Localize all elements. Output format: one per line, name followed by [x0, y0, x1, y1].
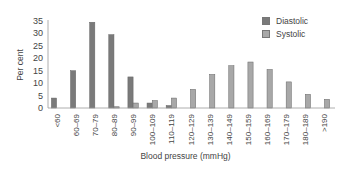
- bar-systolic: [152, 101, 157, 108]
- bar-systolic: [210, 74, 215, 108]
- x-tick-label: 120–129: [187, 113, 196, 145]
- x-tick-label: 80–89: [110, 113, 119, 136]
- bar-diastolic: [147, 103, 152, 108]
- bar-systolic: [267, 69, 272, 108]
- x-tick-label: 160–169: [263, 113, 272, 145]
- bar-diastolic: [128, 77, 133, 108]
- y-tick-label: 0: [38, 103, 43, 113]
- bar-diastolic: [90, 22, 95, 108]
- bar-diastolic: [71, 71, 76, 108]
- y-tick-label: 15: [33, 66, 43, 76]
- x-tick-label: 90–99: [129, 113, 138, 136]
- x-axis-label: Blood pressure (mmHg): [0, 151, 351, 161]
- bar-systolic: [229, 66, 234, 108]
- x-tick-label: >190: [320, 113, 329, 132]
- x-tick-label: 180–189: [301, 113, 310, 145]
- y-axis-label: Per cent: [15, 47, 25, 83]
- bar-systolic: [191, 89, 196, 108]
- legend-item-systolic: Systolic: [262, 27, 308, 40]
- legend-label: Diastolic: [276, 16, 308, 26]
- bar-systolic: [305, 94, 310, 108]
- bar-systolic: [324, 99, 329, 108]
- x-tick-label: 60–69: [72, 113, 81, 136]
- y-axis: 05101520253035: [33, 16, 48, 113]
- x-tick-label: 170–179: [282, 113, 291, 145]
- bar-systolic: [248, 62, 253, 108]
- legend-swatch-icon: [262, 17, 270, 25]
- bar-systolic: [286, 82, 291, 108]
- x-tick-label: 110–119: [167, 113, 176, 144]
- y-tick-label: 30: [33, 28, 43, 38]
- legend-item-diastolic: Diastolic: [262, 14, 308, 27]
- x-tick-label: <60: [53, 113, 62, 127]
- x-tick-label: 150–159: [244, 113, 253, 145]
- bar-diastolic: [51, 98, 56, 108]
- x-tick-label: 70–79: [91, 113, 100, 136]
- bar-systolic: [171, 98, 176, 108]
- x-tick-label: 100–109: [148, 113, 157, 145]
- y-tick-label: 20: [33, 53, 43, 63]
- y-tick-label: 35: [33, 16, 43, 26]
- x-tick-label: 130–139: [206, 113, 215, 145]
- y-tick-label: 25: [33, 41, 43, 51]
- x-tick-label: 140–149: [225, 113, 234, 145]
- legend-label: Systolic: [276, 29, 305, 39]
- bar-systolic: [133, 103, 138, 108]
- bar-diastolic: [109, 35, 114, 108]
- legend-swatch-icon: [262, 30, 270, 38]
- y-tick-label: 5: [38, 91, 43, 101]
- x-axis: <6060–6970–7980–8990–99100–109110–119120…: [48, 108, 335, 145]
- legend: Diastolic Systolic: [262, 14, 308, 40]
- y-tick-label: 10: [33, 78, 43, 88]
